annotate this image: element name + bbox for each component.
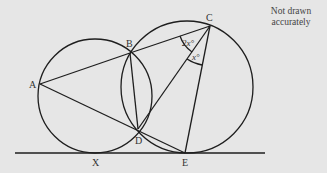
label-A: A — [29, 79, 37, 90]
segment-BD — [130, 53, 138, 129]
label-C: C — [206, 12, 213, 23]
label-D: D — [135, 135, 142, 146]
label-B: B — [126, 38, 133, 49]
label-X: X — [92, 157, 100, 168]
note-line-2: accurately — [258, 17, 324, 28]
note-line-1: Not drawn — [258, 6, 324, 17]
not-drawn-accurately-note: Not drawn accurately — [258, 6, 324, 28]
geometry-diagram: A B C D E X 2x° x° Not drawn accurately — [0, 0, 327, 173]
angle-label-x: x° — [191, 52, 200, 62]
label-E: E — [182, 157, 188, 168]
angle-label-2x: 2x° — [182, 38, 194, 48]
